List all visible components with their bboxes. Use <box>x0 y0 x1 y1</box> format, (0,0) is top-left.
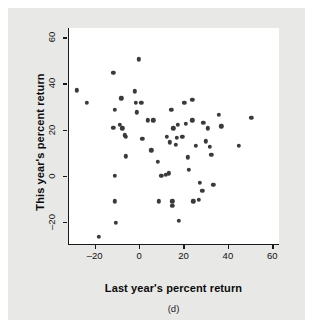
data-point <box>170 204 174 208</box>
plot-frame <box>68 28 279 245</box>
data-point <box>112 174 116 178</box>
data-point <box>191 199 195 203</box>
data-point <box>200 189 204 193</box>
data-point <box>123 154 127 158</box>
data-point <box>140 137 144 141</box>
data-point <box>133 101 137 105</box>
plot-data-area <box>69 28 279 244</box>
data-point <box>111 71 115 75</box>
data-point <box>167 171 171 175</box>
data-point <box>249 116 253 120</box>
y-tick-label: 60 <box>46 28 57 46</box>
data-point <box>237 144 241 148</box>
x-tick-label: –20 <box>87 250 103 261</box>
y-tick-mark <box>63 222 67 223</box>
data-point <box>190 118 194 122</box>
y-tick-label: 40 <box>46 74 57 92</box>
data-point <box>139 101 143 105</box>
data-point <box>190 97 194 101</box>
data-point <box>180 134 184 138</box>
data-point <box>219 124 223 128</box>
data-point <box>198 180 202 184</box>
x-tick-label: 40 <box>223 250 234 261</box>
data-point <box>132 89 136 93</box>
data-point <box>217 112 221 116</box>
data-point <box>183 122 187 126</box>
y-tick-mark <box>63 37 67 38</box>
data-point <box>137 57 141 61</box>
x-tick-mark <box>95 245 96 249</box>
y-tick-mark <box>63 83 67 84</box>
data-point <box>146 118 150 122</box>
x-tick-label: 0 <box>136 250 141 261</box>
data-point <box>203 139 207 143</box>
y-tick-label: –20 <box>46 213 57 231</box>
x-tick-mark <box>183 245 184 249</box>
data-point <box>209 153 213 157</box>
x-tick-mark <box>272 245 273 249</box>
data-point <box>176 123 180 127</box>
y-tick-mark <box>63 176 67 177</box>
x-tick-label: 60 <box>267 250 278 261</box>
data-point <box>113 221 117 225</box>
x-tick-label: 20 <box>178 250 189 261</box>
data-point <box>97 235 101 239</box>
data-point <box>165 134 169 138</box>
data-point <box>112 199 116 203</box>
data-point <box>206 126 210 130</box>
data-point <box>135 110 139 114</box>
data-point <box>123 134 127 138</box>
data-point <box>186 155 190 159</box>
data-point <box>175 135 179 139</box>
data-point <box>156 160 160 164</box>
x-tick-mark <box>139 245 140 249</box>
data-point <box>208 145 212 149</box>
data-point <box>171 126 175 130</box>
y-tick-label: 0 <box>46 167 57 185</box>
data-point <box>119 96 123 100</box>
data-point <box>75 88 79 92</box>
data-point <box>157 199 161 203</box>
data-point <box>177 219 181 223</box>
y-axis-label: This year's percent return <box>34 34 46 251</box>
data-point <box>182 101 186 105</box>
data-point <box>112 108 116 112</box>
y-tick-mark <box>63 130 67 131</box>
data-point <box>111 126 115 130</box>
data-point <box>120 126 124 130</box>
data-point <box>201 120 205 124</box>
data-point <box>85 101 89 105</box>
data-point <box>169 108 173 112</box>
data-point <box>187 168 191 172</box>
data-point <box>173 142 177 146</box>
data-point <box>193 144 197 148</box>
data-point <box>211 183 215 187</box>
x-tick-mark <box>228 245 229 249</box>
y-tick-label: 20 <box>46 121 57 139</box>
data-point <box>151 118 155 122</box>
data-point <box>197 198 201 202</box>
data-point <box>168 140 172 144</box>
x-axis-label: Last year's percent return <box>68 282 279 294</box>
scatter-plot-figure: –200204060 –200204060 Last year's percen… <box>0 0 313 336</box>
data-point <box>149 148 153 152</box>
figure-caption: (d) <box>68 303 279 314</box>
